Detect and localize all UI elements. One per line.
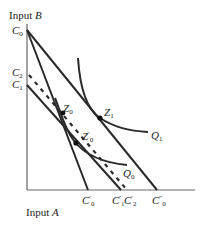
point-z0-prime: [73, 140, 78, 145]
label-z0: Z0: [63, 102, 73, 116]
isocost-line-c1: [27, 85, 121, 190]
isoquant-diagram: Input B Input A C0 C2 C1 C′0 C′1 C′2 C″0…: [0, 0, 203, 228]
point-z1: [97, 115, 102, 120]
label-q1: Q1: [151, 129, 163, 143]
isoquant-q1: [78, 58, 148, 132]
label-z0-prime: Z′0: [82, 130, 94, 144]
label-c2-prime: C′2: [124, 194, 137, 208]
label-c1-prime: C′1: [112, 194, 125, 208]
x-axis-label: Input A: [26, 206, 59, 218]
y-axis-label: Input B: [9, 9, 42, 21]
label-q0: Q0: [123, 167, 135, 181]
label-z1: Z1: [104, 106, 114, 120]
label-c0-prime: C′0: [82, 194, 95, 208]
label-c1: C1: [12, 78, 23, 92]
label-c0-doubleprime: C″0: [152, 194, 166, 208]
label-c0: C0: [12, 24, 23, 38]
